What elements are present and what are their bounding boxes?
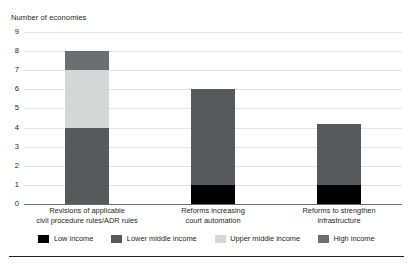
bar-segment <box>191 89 235 185</box>
legend-label: Lower middle income <box>127 234 197 243</box>
category-label-line: court automation <box>150 216 276 226</box>
y-axis-tick-label: 3 <box>15 143 19 151</box>
y-axis-title: Number of economies <box>11 13 86 22</box>
bar-segment <box>317 124 361 185</box>
category-label-line: infrastructure <box>276 216 402 226</box>
x-axis-category-label: Reforms to strengtheninfrastructure <box>276 206 402 225</box>
bar-segment <box>317 185 361 204</box>
y-axis-tick-label: 6 <box>15 86 19 94</box>
chart-legend: Low incomeLower middle incomeUpper middl… <box>0 234 413 243</box>
gridline <box>24 32 402 33</box>
legend-item: Low income <box>38 234 93 243</box>
bottom-rule <box>9 256 404 257</box>
legend-swatch <box>38 235 49 243</box>
y-axis-tick-label: 4 <box>15 124 19 132</box>
y-axis-tick-label: 2 <box>15 162 19 170</box>
y-axis-tick-label: 9 <box>15 28 19 36</box>
bar-column <box>317 124 361 204</box>
category-label-line: Reforms to strengthen <box>276 206 402 216</box>
category-label-line: Revisions of applicable <box>24 206 150 216</box>
legend-label: High income <box>334 234 375 243</box>
bar-segment <box>65 51 109 70</box>
x-axis-category-label: Reforms increasingcourt automation <box>150 206 276 225</box>
y-axis-tick-label: 0 <box>15 200 19 208</box>
bar-segment <box>65 70 109 127</box>
gridline <box>24 204 402 205</box>
bar-column <box>191 89 235 204</box>
x-axis-category-labels: Revisions of applicablecivil procedure r… <box>24 206 402 228</box>
bar-segment <box>191 185 235 204</box>
category-label-line: Reforms increasing <box>150 206 276 216</box>
legend-item: Upper middle income <box>215 234 300 243</box>
legend-item: High income <box>318 234 375 243</box>
bar-segment <box>65 128 109 204</box>
legend-label: Low income <box>54 234 93 243</box>
legend-swatch <box>318 235 329 243</box>
plot-area: 0123456789 <box>24 32 402 204</box>
x-axis-category-label: Revisions of applicablecivil procedure r… <box>24 206 150 225</box>
y-axis-tick-label: 8 <box>15 47 19 55</box>
bar-column <box>65 51 109 204</box>
y-axis-tick-label: 1 <box>15 181 19 189</box>
chart-figure: Number of economies 0123456789 Revisions… <box>0 0 413 264</box>
y-axis-tick-label: 7 <box>15 66 19 74</box>
legend-item: Lower middle income <box>111 234 196 243</box>
legend-swatch <box>215 235 226 243</box>
y-axis-tick-label: 5 <box>15 105 19 113</box>
category-label-line: civil procedure rules/ADR rules <box>24 216 150 226</box>
legend-label: Upper middle income <box>230 234 300 243</box>
legend-swatch <box>111 235 122 243</box>
